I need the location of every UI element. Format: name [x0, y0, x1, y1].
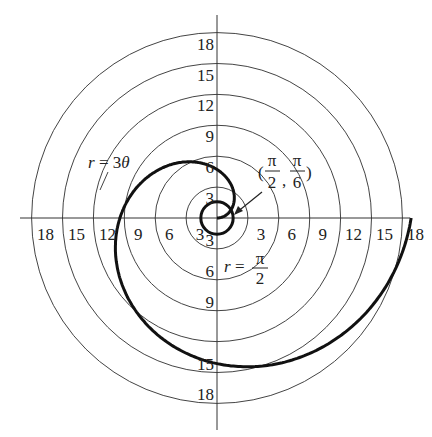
tick-bottom-6: 6: [206, 262, 215, 281]
polar-plot: 3691215183691518369121518369121518 r = 3…: [0, 0, 432, 437]
tick-top-6: 6: [206, 158, 215, 177]
tick-top-9: 9: [206, 127, 215, 146]
tick-left-18: 18: [37, 225, 54, 244]
axes: [20, 15, 410, 430]
tick-top-12: 12: [197, 96, 214, 115]
point-pi-1: π: [268, 151, 277, 170]
tick-left-12: 12: [99, 225, 116, 244]
point-close-paren: ): [306, 163, 312, 182]
tick-top-18: 18: [197, 35, 214, 54]
axis-tick-labels: 3691215183691518369121518369121518: [37, 35, 424, 405]
tick-right-15: 15: [376, 225, 393, 244]
tick-bottom-3: 3: [206, 231, 215, 250]
tick-right-9: 9: [318, 225, 327, 244]
tick-bottom-15: 15: [197, 355, 214, 374]
arrowhead: [234, 206, 243, 215]
label-point: (: [258, 163, 264, 182]
tick-right-3: 3: [257, 225, 266, 244]
tick-right-6: 6: [288, 225, 297, 244]
label-r-3theta: r = 3θ: [88, 153, 130, 172]
tick-bottom-9: 9: [206, 293, 215, 312]
point-comma: ,: [282, 171, 286, 190]
label-r-pi-over-2: r =: [224, 257, 244, 276]
tick-left-6: 6: [165, 225, 174, 244]
tick-right-12: 12: [345, 225, 362, 244]
point-6: 6: [293, 173, 302, 192]
label-pi: π: [256, 249, 265, 268]
tick-left-15: 15: [68, 225, 85, 244]
label-2: 2: [256, 269, 265, 288]
tick-right-18: 18: [407, 225, 424, 244]
tick-bottom-18: 18: [197, 385, 214, 404]
point-2: 2: [268, 173, 277, 192]
tick-top-3: 3: [206, 189, 215, 208]
tick-top-15: 15: [197, 66, 214, 85]
tick-left-3: 3: [196, 225, 205, 244]
tick-left-9: 9: [134, 225, 143, 244]
point-pi-2: π: [293, 151, 302, 170]
